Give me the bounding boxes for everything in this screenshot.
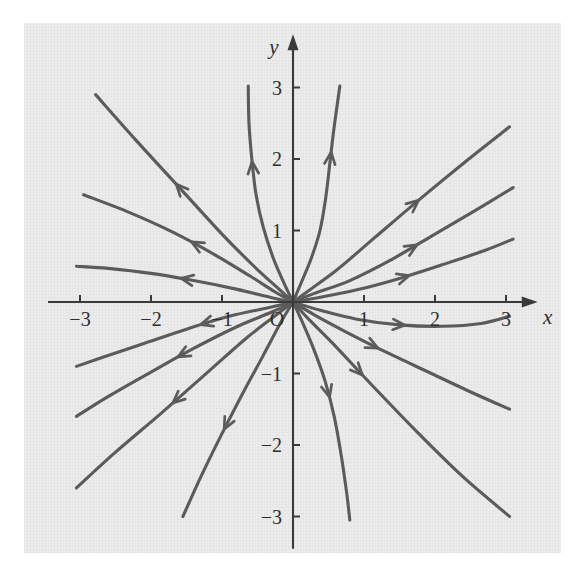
phase-portrait-canvas: −3−2−1123321−1−2−3xyO <box>0 0 586 577</box>
trajectories-layer <box>76 86 513 520</box>
x-axis-tick-label: 2 <box>430 308 440 330</box>
x-axis-tick-label: −2 <box>140 308 161 330</box>
axes-layer <box>48 34 538 549</box>
y-axis-tick-label: −1 <box>261 363 282 385</box>
y-axis-arrowhead <box>288 34 299 50</box>
flow-arrows-layer <box>173 152 419 429</box>
x-axis-tick-label: −3 <box>69 308 90 330</box>
phase-portrait-figure: −3−2−1123321−1−2−3xyO <box>0 0 586 577</box>
axis-labels-layer: −3−2−1123321−1−2−3xyO <box>69 35 553 527</box>
y-axis-tick-label: 2 <box>272 148 282 170</box>
x-axis-tick-label: 3 <box>501 308 511 330</box>
trajectory-curve <box>293 239 513 302</box>
y-axis-tick-label: 1 <box>272 220 282 242</box>
trajectory-curve <box>293 302 350 520</box>
trajectory-curve <box>248 86 293 302</box>
y-axis-tick-label: −2 <box>261 434 282 456</box>
trajectory-curve <box>293 302 510 517</box>
x-axis-tick-label: 1 <box>359 308 369 330</box>
x-axis-name-label: x <box>542 305 553 329</box>
y-axis-tick-label: −3 <box>261 506 282 528</box>
origin-point-label: O <box>270 308 284 330</box>
trajectory-curve <box>183 302 293 517</box>
y-axis-name-label: y <box>267 35 279 59</box>
y-axis-tick-label: 3 <box>272 77 282 99</box>
x-axis-arrowhead <box>522 297 538 308</box>
x-axis-tick-label: −1 <box>211 308 232 330</box>
trajectory-curve <box>293 86 340 302</box>
trajectory-curve <box>84 195 293 302</box>
